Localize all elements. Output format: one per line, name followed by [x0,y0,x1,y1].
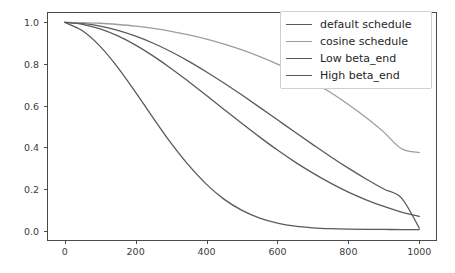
y-tick-label: 0.8 [24,59,39,70]
y-tick-label: 1.0 [24,17,39,28]
legend-item-label: default schedule [320,19,412,30]
legend-line-swatch [286,41,312,42]
y-tick-mark [44,64,47,65]
legend-item[interactable]: default schedule [286,16,425,33]
x-tick-label: 800 [339,246,357,257]
legend-line-swatch [286,75,312,76]
x-tick-label: 200 [127,246,145,257]
legend-item-label: cosine schedule [320,36,408,47]
x-tick-mark [136,241,137,244]
y-tick-mark [44,22,47,23]
y-tick-mark [44,106,47,107]
chart-legend: default schedulecosine scheduleLow beta_… [280,11,432,89]
y-tick-mark [44,231,47,232]
x-tick-mark [207,241,208,244]
legend-item[interactable]: High beta_end [286,67,425,84]
axis-spine-bottom [47,240,437,241]
legend-item-label: Low beta_end [320,53,396,64]
axis-spine-right [436,12,437,241]
y-tick-mark [44,147,47,148]
legend-line-swatch [286,24,312,25]
axis-spine-left [47,12,48,241]
x-tick-label: 600 [268,246,286,257]
legend-item[interactable]: cosine schedule [286,33,425,50]
legend-item[interactable]: Low beta_end [286,50,425,67]
legend-line-swatch [286,58,312,59]
x-tick-label: 0 [62,246,68,257]
y-tick-label: 0.6 [24,100,39,111]
x-tick-mark [348,241,349,244]
x-tick-mark [65,241,66,244]
legend-item-label: High beta_end [320,70,400,81]
y-tick-label: 0.0 [24,225,39,236]
x-tick-mark [277,241,278,244]
y-tick-mark [44,189,47,190]
x-tick-label: 400 [197,246,215,257]
x-tick-label: 1000 [407,246,431,257]
y-tick-label: 0.2 [24,183,39,194]
y-tick-label: 0.4 [24,142,39,153]
chart-figure: 02004006008001000 0.00.20.40.60.81.0 def… [0,0,455,273]
x-tick-mark [419,241,420,244]
